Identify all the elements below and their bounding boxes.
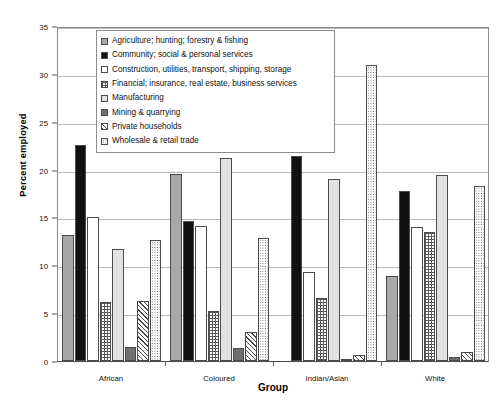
legend-label: Construction, utilities, transport, ship…	[112, 66, 291, 74]
bar-coloured-s6	[245, 332, 257, 361]
bar-indian-asian-s3	[316, 298, 328, 361]
legend-swatch-icon	[101, 109, 108, 116]
legend-label: Private households	[112, 123, 182, 131]
bar-indian-asian-s6	[353, 355, 365, 361]
gridline	[58, 28, 488, 29]
bar-white-s3	[424, 232, 436, 361]
y-tick-label: 5	[44, 310, 48, 319]
bar-coloured-s3	[208, 311, 220, 361]
bar-african-s3	[100, 302, 112, 361]
bar-african-s6	[137, 301, 149, 361]
gridline	[58, 219, 488, 220]
bar-african-s5	[125, 347, 137, 361]
legend-label: Agriculture; hunting; forestry & fishing	[112, 37, 248, 45]
legend-label: Wholesale & retail trade	[112, 137, 199, 145]
bar-african-s0	[62, 235, 74, 361]
legend-swatch-icon	[101, 52, 108, 59]
bar-coloured-s7	[258, 238, 270, 361]
legend-item-2[interactable]: Construction, utilities, transport, ship…	[101, 63, 330, 77]
legend-swatch-icon	[101, 138, 108, 145]
bar-indian-asian-s7	[366, 65, 378, 361]
chart-figure: Percent employed 05101520253035 AfricanC…	[0, 0, 503, 401]
legend-swatch-icon	[101, 81, 108, 88]
bar-coloured-s1	[183, 221, 195, 361]
bar-indian-asian-s4	[328, 179, 340, 361]
x-axis: AfricanColouredIndian/AsianWhite	[57, 362, 489, 400]
bar-indian-asian-s1	[291, 156, 303, 361]
legend-swatch-icon	[101, 123, 108, 130]
x-tick-mark	[273, 362, 274, 366]
legend-item-3[interactable]: Financial; insurance, real estate, busin…	[101, 77, 330, 91]
bar-coloured-s2	[195, 226, 207, 361]
bar-white-s5	[449, 357, 461, 361]
legend-item-5[interactable]: Mining & quarrying	[101, 105, 330, 119]
y-tick-label: 30	[39, 70, 48, 79]
bar-coloured-s4	[220, 158, 232, 361]
y-axis: 05101520253035	[0, 27, 57, 363]
legend-label: Community; social & personal services	[112, 51, 253, 59]
bar-white-s1	[399, 191, 411, 361]
legend-item-0[interactable]: Agriculture; hunting; forestry & fishing	[101, 34, 330, 48]
legend-label: Mining & quarrying	[112, 109, 180, 117]
legend-swatch-icon	[101, 38, 108, 45]
y-tick-label: 10	[39, 262, 48, 271]
x-axis-title: Group	[57, 382, 489, 393]
x-tick-mark	[165, 362, 166, 366]
y-tick-label: 35	[39, 23, 48, 32]
bar-indian-asian-s5	[341, 359, 353, 361]
legend-label: Financial; insurance, real estate, busin…	[112, 80, 297, 88]
legend-item-1[interactable]: Community; social & personal services	[101, 48, 330, 62]
legend-item-6[interactable]: Private households	[101, 120, 330, 134]
bar-white-s7	[474, 186, 486, 361]
legend-item-7[interactable]: Wholesale & retail trade	[101, 134, 330, 148]
legend-label: Manufacturing	[112, 94, 164, 102]
bar-coloured-s5	[233, 348, 245, 361]
bar-white-s6	[461, 352, 473, 361]
gridline	[58, 172, 488, 173]
bar-white-s4	[436, 175, 448, 361]
y-tick-label: 0	[44, 358, 48, 367]
legend-item-4[interactable]: Manufacturing	[101, 91, 330, 105]
legend-swatch-icon	[101, 66, 108, 73]
bar-white-s0	[386, 276, 398, 361]
bar-african-s2	[87, 217, 99, 361]
y-tick-label: 20	[39, 166, 48, 175]
x-tick-mark	[381, 362, 382, 366]
bar-coloured-s0	[170, 174, 182, 361]
bar-african-s1	[75, 145, 87, 361]
bar-indian-asian-s2	[303, 272, 315, 361]
y-tick-label: 25	[39, 118, 48, 127]
bar-white-s2	[411, 227, 423, 361]
legend-swatch-icon	[101, 95, 108, 102]
x-axis-title-wrap: Group	[57, 382, 489, 393]
y-tick-label: 15	[39, 214, 48, 223]
bar-african-s4	[112, 249, 124, 361]
chart-legend: Agriculture; hunting; forestry & fishing…	[96, 30, 335, 153]
bar-african-s7	[150, 240, 162, 361]
